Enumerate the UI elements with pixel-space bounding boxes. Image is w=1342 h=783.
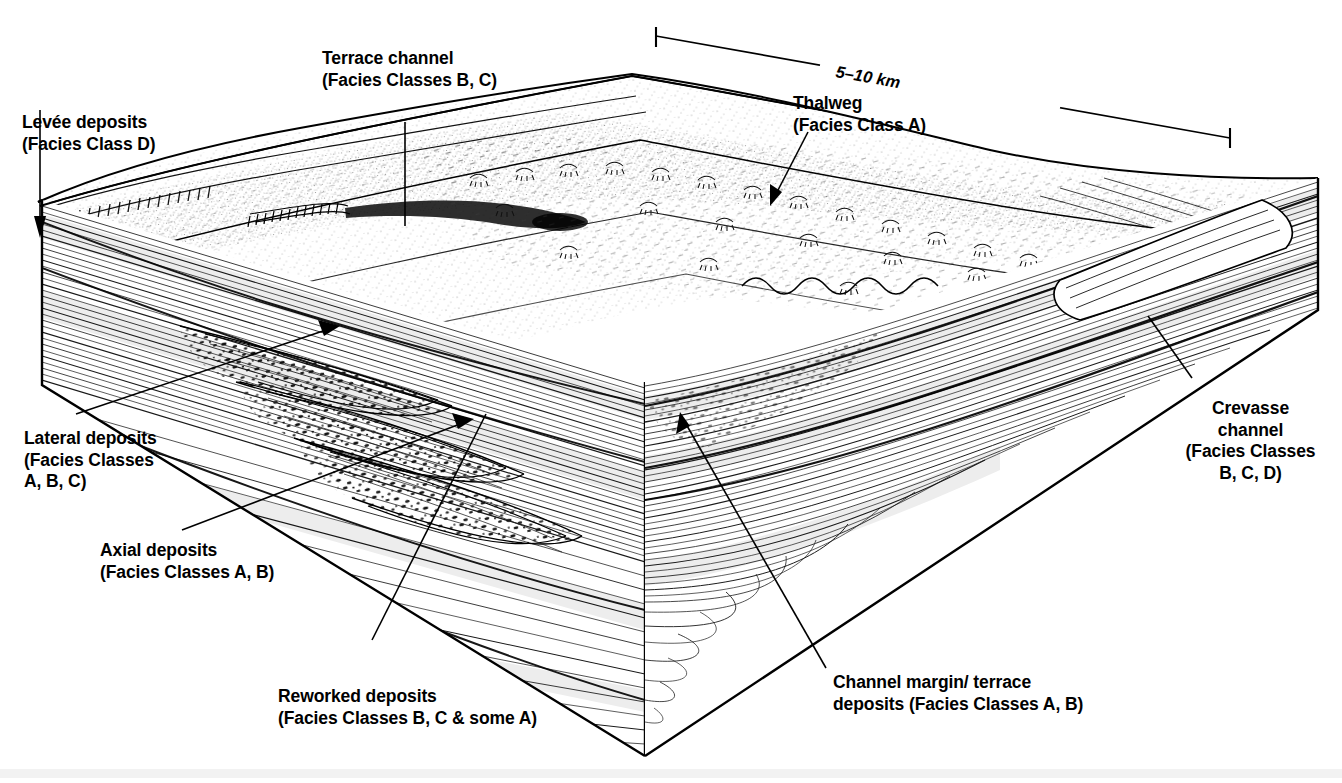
label-channel-margin: Channel margin/ terracedeposits (Facies … bbox=[833, 672, 1083, 715]
label-axial-deposits: Axial deposits(Facies Classes A, B) bbox=[100, 540, 274, 583]
label-terrace-channel-line2: (Facies Classes B, C) bbox=[322, 70, 497, 90]
label-levee-line1: Levée deposits bbox=[22, 112, 147, 132]
block-diagram-drawing bbox=[0, 0, 1342, 783]
label-crevasse-line1: Crevasse bbox=[1212, 398, 1289, 418]
label-terrace-channel-line1: Terrace channel bbox=[322, 48, 453, 68]
scan-artifact-strip bbox=[0, 769, 1342, 778]
label-lateral-line1: Lateral deposits bbox=[24, 428, 157, 448]
label-reworked-deposits: Reworked deposits(Facies Classes B, C & … bbox=[278, 686, 537, 729]
label-reworked-line1: Reworked deposits bbox=[278, 686, 437, 706]
label-thalweg-line1: Thalweg bbox=[793, 93, 862, 113]
figure-canvas: Terrace channel(Facies Classes B, C) Lev… bbox=[0, 0, 1342, 783]
label-terrace-channel: Terrace channel(Facies Classes B, C) bbox=[322, 48, 497, 91]
label-axial-line2: (Facies Classes A, B) bbox=[100, 562, 274, 582]
label-crevasse-channel: Crevassechannel(Facies ClassesB, C, D) bbox=[1163, 398, 1338, 484]
label-thalweg-line2: (Facies Class A) bbox=[793, 115, 926, 135]
label-crevasse-line2: channel bbox=[1218, 420, 1283, 440]
label-crevasse-line4: B, C, D) bbox=[1219, 463, 1281, 483]
label-thalweg: Thalweg(Facies Class A) bbox=[793, 93, 926, 136]
label-axial-line1: Axial deposits bbox=[100, 540, 217, 560]
label-reworked-line2: (Facies Classes B, C & some A) bbox=[278, 708, 537, 728]
label-crevasse-line3: (Facies Classes bbox=[1186, 441, 1316, 461]
label-levee-deposits: Levée deposits(Facies Class D) bbox=[22, 112, 156, 155]
label-channel-margin-line1: Channel margin/ terrace bbox=[833, 672, 1031, 692]
label-lateral-deposits: Lateral deposits(Facies ClassesA, B, C) bbox=[24, 428, 157, 493]
label-levee-line2: (Facies Class D) bbox=[22, 134, 156, 154]
label-lateral-line3: A, B, C) bbox=[24, 471, 86, 491]
label-lateral-line2: (Facies Classes bbox=[24, 450, 154, 470]
label-channel-margin-line2: deposits (Facies Classes A, B) bbox=[833, 694, 1083, 714]
